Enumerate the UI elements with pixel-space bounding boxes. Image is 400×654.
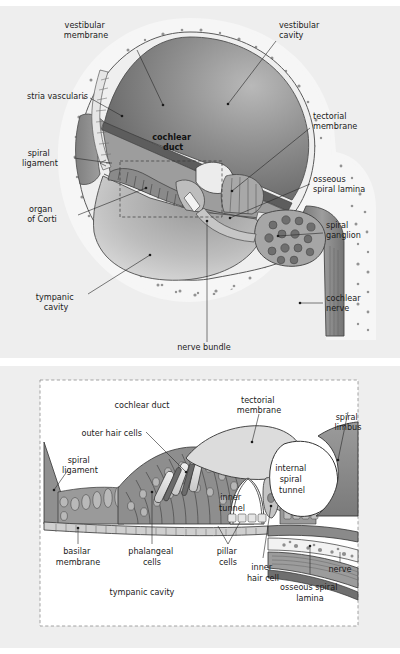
- label-spiral-limbus: spiral limbus: [335, 412, 362, 432]
- label-tympanic-cavity-detail: tympanic cavity: [110, 587, 175, 597]
- top-panel-illustration: vestibular membrane vestibular cavity st…: [0, 6, 400, 358]
- label-internal-spiral-tunnel: internal spiral tunnel: [275, 463, 309, 495]
- bottom-panel-illustration: cochlear duct tectorial membrane spiral …: [0, 366, 400, 648]
- label-inner-tunnel: inner tunnel: [219, 492, 245, 513]
- label-pillar-cells: pillar cells: [217, 546, 240, 567]
- label-vestibular-membrane: vestibular membrane: [64, 20, 108, 40]
- label-organ-of-corti: organ of Corti: [27, 204, 57, 224]
- bottom-panel-organ-of-corti: cochlear duct tectorial membrane spiral …: [0, 366, 400, 648]
- label-outer-hair-cells: outer hair cells: [81, 428, 142, 438]
- label-nerve-detail: nerve: [328, 564, 351, 574]
- top-panel-cochlear-turn: vestibular membrane vestibular cavity st…: [0, 6, 400, 358]
- label-tectorial-membrane-detail: tectorial membrane: [237, 395, 281, 415]
- label-stria-vascularis: stria vascularis: [27, 91, 88, 101]
- cochlea-figure: vestibular membrane vestibular cavity st…: [0, 0, 400, 654]
- label-nerve-bundle: nerve bundle: [177, 342, 231, 352]
- claudius-cell-row: [58, 487, 124, 525]
- label-inner-hair-cell: inner hair cell: [247, 562, 279, 583]
- label-cochlear-duct-detail: cochlear duct: [115, 400, 170, 410]
